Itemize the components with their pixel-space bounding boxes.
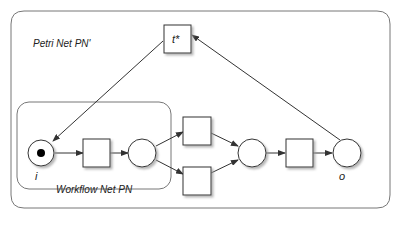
transition-t2[interactable]: [183, 117, 211, 145]
arc-p1-to-t2: [156, 132, 183, 146]
arc-o-to-tstar: [192, 35, 340, 140]
arc-t2-to-p2: [211, 133, 238, 146]
place-p1[interactable]: [128, 139, 156, 167]
place-o[interactable]: [333, 139, 361, 167]
transition-t-star-label: t*: [172, 33, 180, 45]
place-o-label: o: [339, 170, 345, 182]
arc-t3-to-p2: [211, 160, 238, 173]
outer-net-label: Petri Net PN': [33, 38, 92, 49]
place-p2[interactable]: [238, 139, 266, 167]
transition-t4[interactable]: [286, 139, 313, 167]
arc-tstar-to-i: [53, 41, 163, 141]
petri-net-diagram: Petri Net PN' Workflow Net PN t* i o: [0, 0, 396, 228]
inner-net-label: Workflow Net PN: [56, 184, 133, 195]
token-icon: [37, 149, 45, 157]
place-i-label: i: [35, 170, 38, 182]
transition-t3[interactable]: [183, 167, 211, 195]
arc-p1-to-t3: [156, 160, 183, 174]
transition-t1[interactable]: [83, 139, 110, 167]
